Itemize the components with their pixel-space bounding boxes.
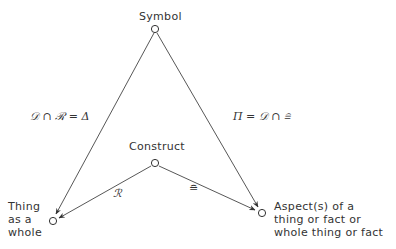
node-aspect <box>258 209 265 216</box>
label-edge-construct-thing: ℛ <box>113 187 122 200</box>
node-thing <box>49 217 56 224</box>
edge-symbol-to-thing <box>56 33 154 214</box>
label-aspect: Aspect(s) of a thing or fact or whole th… <box>274 200 383 239</box>
label-edge-symbol-thing: 𝒟 ∩ ℛ = Δ <box>30 110 89 123</box>
node-construct <box>151 159 158 166</box>
edge-construct-to-aspect <box>159 166 255 210</box>
label-construct: Construct <box>129 140 185 153</box>
label-symbol: Symbol <box>139 10 182 23</box>
edge-construct-to-thing <box>59 166 151 218</box>
label-edge-construct-aspect: ≘ <box>189 182 198 195</box>
label-thing: Thing as a whole <box>8 200 42 239</box>
node-symbol <box>151 25 158 32</box>
label-edge-symbol-aspect: Π = 𝒟 ∩ ≘ <box>233 110 290 123</box>
